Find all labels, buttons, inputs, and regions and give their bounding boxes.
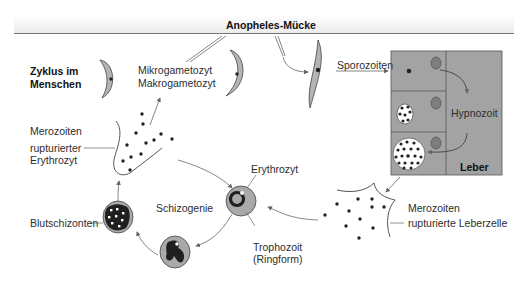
label-hypnozoite: Hypnozoit — [451, 107, 498, 119]
erythrocyte-trophozoite — [226, 175, 256, 226]
arrow-to-gametocytes — [150, 98, 160, 125]
arrow-trophozoite-to-schizont — [196, 214, 232, 246]
arrow-merozoites-to-erythrocyte — [178, 160, 232, 188]
label-sporozoites: Sporozoiten — [337, 59, 393, 71]
label-microgametocyte: Mikrogametozyt — [138, 64, 212, 76]
label-schizogony: Schizogenie — [156, 202, 213, 214]
cycle-label-line1: Zyklus im — [30, 65, 78, 77]
arrow-to-ruptured-erythrocyte — [118, 181, 119, 202]
label-ruptured-erythrocyte-1: rupturierter — [30, 142, 81, 154]
label-ruptured-liver-cell: rupturierte Leberzelle — [408, 217, 507, 229]
label-ruptured-erythrocyte-2: Erythrozyt — [30, 154, 77, 166]
title-anopheles: Anopheles-Mücke — [226, 19, 316, 31]
microgametocyte-crescent — [226, 50, 243, 96]
sporozoite-cell — [309, 40, 321, 108]
cycle-label-line2: Menschen — [30, 78, 81, 90]
label-trophozoite-1: Trophozoit — [253, 241, 302, 253]
arrow-to-blood-schizont — [137, 232, 158, 255]
label-macrogametocyte: Makrogametozyt — [138, 77, 216, 89]
label-liver: Leber — [460, 161, 489, 173]
developing-schizont-cell — [160, 236, 190, 268]
macrogametocyte-crescent — [100, 60, 113, 98]
ruptured-liver-cell — [323, 183, 404, 240]
label-merozoites-liver: Merozoiten — [408, 202, 460, 214]
arrow-liver-to-rupture — [386, 177, 400, 192]
arrow-to-sporozoite — [283, 57, 308, 72]
label-trophozoite-2: (Ringform) — [253, 253, 303, 265]
label-erythrocyte: Erythrozyt — [251, 163, 298, 175]
ruptured-erythrocyte — [84, 112, 174, 174]
label-blood-schizonts: Blutschizonten — [30, 217, 98, 229]
malaria-lifecycle-diagram — [0, 0, 527, 281]
arrow-to-erythrocyte — [268, 207, 318, 220]
label-merozoites-blood: Merozoiten — [30, 125, 82, 137]
